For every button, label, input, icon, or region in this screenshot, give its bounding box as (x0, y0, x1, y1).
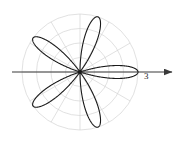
grid-spoke-11 (80, 72, 130, 101)
polar-plot-canvas (0, 0, 180, 148)
grid-spoke-1 (80, 43, 130, 72)
r-max-tick-label: 3 (144, 72, 149, 81)
grid-spoke-8 (51, 72, 80, 122)
polar-rose-figure: 3 (0, 0, 180, 148)
grid-spoke-4 (51, 22, 80, 72)
